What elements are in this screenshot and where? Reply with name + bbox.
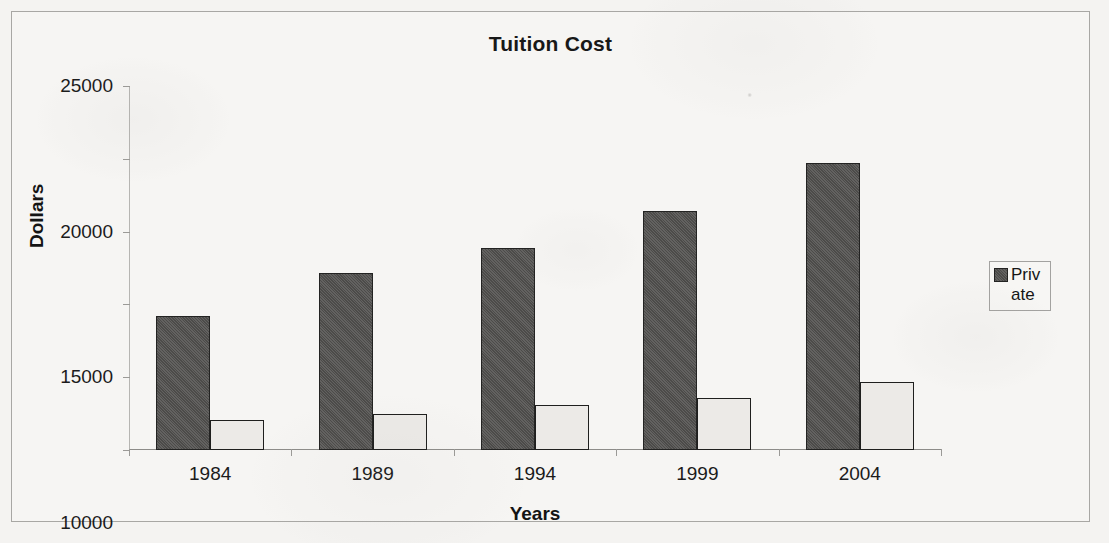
x-axis-tick-label: 1984 xyxy=(129,463,291,485)
chart-title: Tuition Cost xyxy=(12,32,1089,56)
x-axis-tick xyxy=(616,449,617,456)
y-axis-tick-label: 15000 xyxy=(60,366,113,388)
x-axis-tick-label: 1994 xyxy=(454,463,616,485)
private-series-swatch-icon xyxy=(994,268,1008,282)
bar-private-2004 xyxy=(806,163,860,450)
x-axis-tick-label: 2004 xyxy=(779,463,941,485)
x-axis-title: Years xyxy=(129,503,941,525)
bar-public-1984 xyxy=(210,420,264,450)
bar-group: 1994 xyxy=(454,86,616,450)
chart-legend: Private xyxy=(989,261,1051,311)
x-axis-tick-label: 1989 xyxy=(291,463,453,485)
bar-private-1994 xyxy=(481,248,535,450)
y-axis-tick-label: 10000 xyxy=(60,512,113,534)
x-axis-tick xyxy=(291,449,292,456)
x-axis-tick xyxy=(779,449,780,456)
bar-private-1989 xyxy=(319,273,373,450)
bar-group: 2004 xyxy=(779,86,941,450)
x-axis-tick xyxy=(941,449,942,456)
bar-public-1989 xyxy=(373,414,427,450)
bar-group: 1999 xyxy=(616,86,778,450)
x-axis-tick xyxy=(454,449,455,456)
x-axis-tick-label: 1999 xyxy=(616,463,778,485)
bar-public-2004 xyxy=(860,382,914,450)
bar-group: 1989 xyxy=(291,86,453,450)
plot-area: 0500010000150002000025000 19841989199419… xyxy=(129,86,941,450)
bar-group: 1984 xyxy=(129,86,291,450)
legend-item-label: Private xyxy=(1011,265,1045,305)
y-axis-title: Dollars xyxy=(26,184,48,248)
bar-private-1999 xyxy=(643,211,697,450)
x-axis-tick xyxy=(129,449,130,456)
bar-public-1999 xyxy=(697,398,751,450)
bar-public-1994 xyxy=(535,405,589,450)
chart-frame: Tuition Cost Dollars 0500010000150002000… xyxy=(11,11,1090,522)
bar-private-1984 xyxy=(156,316,210,450)
legend-item-private: Private xyxy=(994,265,1045,305)
y-axis-tick-label: 20000 xyxy=(60,221,113,243)
y-axis-tick-label: 25000 xyxy=(60,75,113,97)
